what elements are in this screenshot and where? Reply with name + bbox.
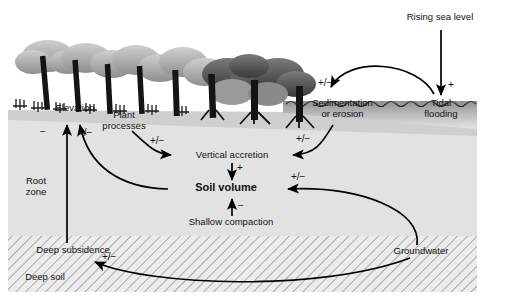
- node-plant-processes: Plantprocesses: [93, 110, 155, 131]
- sign-groundwater-to-soilvolume: +/−: [291, 172, 305, 182]
- marsh-elevation-diagram: Rising sea level Tidalflooding Sedimenta…: [0, 0, 524, 303]
- sign-tidal-to-sedimentation: +/−: [318, 78, 332, 88]
- node-tidal-flooding: Tidalflooding: [406, 98, 476, 119]
- sign-accretion-to-soilvolume: +: [237, 163, 243, 173]
- sign-compaction-to-soilvolume: −: [238, 201, 244, 211]
- node-soil-volume: Soil volume: [168, 182, 284, 193]
- sign-sealevel-to-tidal: +: [448, 80, 454, 90]
- node-rising-sea-level: Rising sea level: [380, 12, 500, 23]
- node-sedimentation-or-erosion: Sedimentationor erosion: [295, 98, 390, 119]
- sign-groundwater-to-subsidence: +/−: [102, 252, 116, 262]
- sign-soilvolume-to-elevation: +/−: [78, 128, 92, 138]
- zone-label-root-zone: Rootzone: [14, 176, 58, 197]
- sign-plant-to-accretion: +/−: [150, 136, 164, 146]
- zone-label-deep-soil: Deep soil: [14, 272, 76, 283]
- sign-sedimentation-to-accretion: +/−: [296, 134, 310, 144]
- edge-tidal-to-sedimentation: [331, 66, 434, 94]
- node-shallow-compaction: Shallow compaction: [166, 217, 296, 228]
- sign-subsidence-to-elevation: −: [40, 127, 46, 137]
- node-vertical-accretion: Vertical accretion: [178, 150, 286, 161]
- node-groundwater: Groundwater: [383, 246, 459, 257]
